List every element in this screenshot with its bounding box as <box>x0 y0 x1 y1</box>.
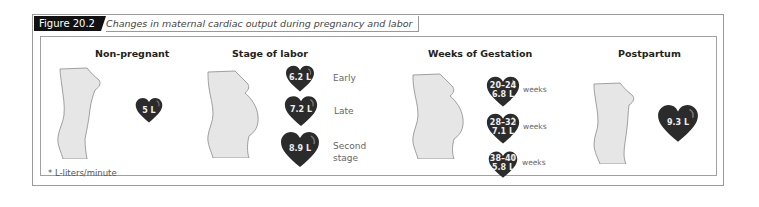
heart-icon-weeks-20-24: 20–24 6.8 L <box>486 75 520 109</box>
body-silhouette-gestation <box>410 73 472 159</box>
heart-weeks: 38–40 <box>488 154 518 163</box>
footnote: * L-liters/minute <box>48 168 117 178</box>
body-silhouette-labor <box>205 70 267 158</box>
heart-weeks: 28–32 <box>486 118 520 127</box>
heart-icon-non-pregnant: 5 L <box>135 97 163 124</box>
section-title-weeks-of-gestation: Weeks of Gestation <box>428 48 532 59</box>
heart-icon-labor-second-stage: 8.9 L <box>280 130 320 170</box>
figure-number: Figure 20.2 <box>34 16 101 31</box>
figure-caption: Changes in maternal cardiac output durin… <box>106 16 419 32</box>
label-second-stage-line1: Second <box>333 140 366 152</box>
label-early: Early <box>333 72 356 84</box>
body-silhouette-non-pregnant <box>55 67 105 159</box>
heart-icon-weeks-38-40: 38–40 5.8 L <box>488 150 518 180</box>
section-title-postpartum: Postpartum <box>618 48 681 59</box>
heart-icon-weeks-28-32: 28–32 7.1 L <box>486 112 520 146</box>
heart-value: 5 L <box>135 106 163 115</box>
body-silhouette-postpartum <box>590 82 640 164</box>
heart-value: 7.2 L <box>284 105 318 114</box>
heart-icon-labor-early: 6.2 L <box>285 65 315 93</box>
section-title-stage-of-labor: Stage of labor <box>232 48 308 59</box>
label-second-stage: Second stage <box>333 140 366 164</box>
heart-value: 6.2 L <box>285 73 315 82</box>
heart-value: 7.1 L <box>486 127 520 136</box>
heart-value: 9.3 L <box>657 118 699 127</box>
heart-value: 6.8 L <box>486 90 520 99</box>
label-second-stage-line2: stage <box>333 152 366 164</box>
heart-value: 5.8 L <box>488 163 518 172</box>
heart-icon-labor-late: 7.2 L <box>284 95 318 128</box>
heart-icon-postpartum: 9.3 L <box>657 103 699 145</box>
label-weeks: weeks <box>523 85 547 94</box>
heart-value: 8.9 L <box>280 144 320 153</box>
section-title-non-pregnant: Non-pregnant <box>95 48 169 59</box>
label-weeks: weeks <box>523 122 547 131</box>
heart-weeks: 20–24 <box>486 81 520 90</box>
label-weeks: weeks <box>522 158 546 167</box>
label-late: Late <box>334 105 354 117</box>
